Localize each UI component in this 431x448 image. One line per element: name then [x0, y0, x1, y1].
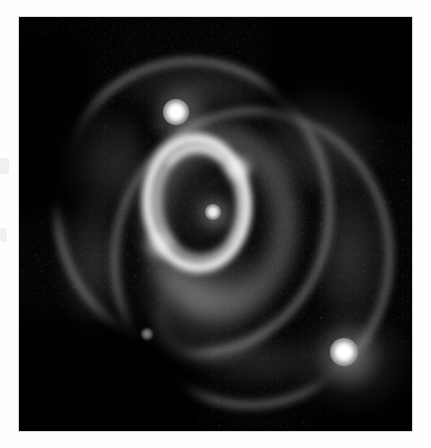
star-3	[330, 338, 358, 366]
sky-plate	[19, 17, 412, 431]
scan-artifact-upper	[0, 158, 9, 174]
faint-field-star-core	[141, 328, 153, 340]
central-source-core	[205, 204, 221, 220]
faint-field-star	[141, 328, 153, 340]
figure-page	[0, 0, 431, 448]
inner-ring-knot-southwest	[147, 233, 171, 257]
inner-ring-knot-northeast	[225, 157, 251, 179]
haze-arc-west	[53, 187, 117, 337]
star-3-core	[330, 338, 358, 366]
central-point-source	[205, 204, 221, 220]
scan-artifact-lower	[0, 228, 7, 242]
star-2	[163, 99, 189, 125]
star-2-core	[163, 99, 189, 125]
image-frame	[19, 17, 412, 431]
